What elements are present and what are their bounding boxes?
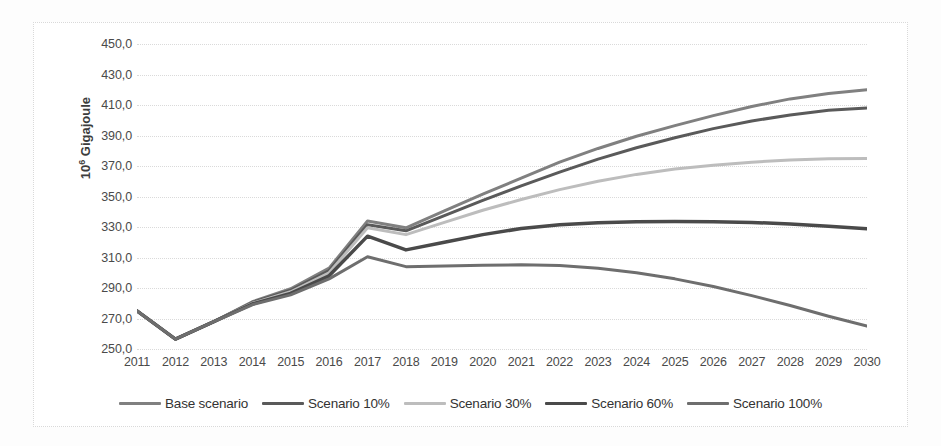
x-axis-tick-label: 2016 — [316, 355, 343, 369]
y-axis-tick-label: 330,0 — [62, 220, 132, 234]
legend-swatch — [262, 402, 304, 405]
legend-swatch — [119, 402, 161, 405]
series-line — [137, 222, 867, 340]
x-axis-tick-label: 2014 — [239, 355, 266, 369]
y-axis-tick-label: 290,0 — [62, 281, 132, 295]
legend-label: Scenario 60% — [591, 396, 673, 411]
series-lines — [137, 44, 867, 349]
legend-item[interactable]: Scenario 60% — [545, 396, 673, 411]
legend-label: Scenario 100% — [733, 396, 822, 411]
y-axis-tick-label: 370,0 — [62, 159, 132, 173]
y-axis-tick-label: 310,0 — [62, 251, 132, 265]
x-axis-tick-label: 2019 — [431, 355, 458, 369]
y-axis-tick-labels: 250,0270,0290,0310,0330,0350,0370,0390,0… — [60, 44, 132, 349]
x-axis-tick-labels: 2011201220132014201520162017201820192020… — [137, 355, 867, 375]
chart-legend: Base scenarioScenario 10%Scenario 30%Sce… — [33, 396, 908, 411]
y-axis-tick-label: 350,0 — [62, 190, 132, 204]
x-axis-tick-label: 2018 — [392, 355, 419, 369]
legend-swatch — [687, 402, 729, 405]
x-axis-tick-label: 2017 — [354, 355, 381, 369]
x-axis-tick-label: 2024 — [623, 355, 650, 369]
y-axis-tick-label: 430,0 — [62, 68, 132, 82]
legend-item[interactable]: Scenario 30% — [404, 396, 532, 411]
x-axis-tick-label: 2026 — [700, 355, 727, 369]
plot-area — [137, 44, 867, 349]
x-axis-tick-label: 2013 — [200, 355, 227, 369]
x-axis-tick-label: 2021 — [508, 355, 535, 369]
x-axis-tick-label: 2015 — [277, 355, 304, 369]
x-axis-tick-label: 2025 — [661, 355, 688, 369]
series-line — [137, 90, 867, 339]
y-axis-tick-label: 250,0 — [62, 342, 132, 356]
legend-item[interactable]: Scenario 10% — [262, 396, 390, 411]
x-axis-tick-label: 2022 — [546, 355, 573, 369]
x-axis-tick-label: 2023 — [585, 355, 612, 369]
line-chart-figure: 106 Gigajoule 250,0270,0290,0310,0330,03… — [0, 0, 941, 446]
y-axis-tick-label: 450,0 — [62, 37, 132, 51]
legend-item[interactable]: Scenario 100% — [687, 396, 822, 411]
y-axis-tick-label: 410,0 — [62, 98, 132, 112]
gridline — [137, 349, 867, 350]
y-axis-tick-label: 270,0 — [62, 312, 132, 326]
y-axis-tick-label: 390,0 — [62, 129, 132, 143]
x-axis-tick-label: 2012 — [162, 355, 189, 369]
series-line — [137, 257, 867, 339]
x-axis-tick-label: 2011 — [124, 355, 150, 369]
legend-swatch — [545, 402, 587, 405]
legend-label: Scenario 30% — [450, 396, 532, 411]
x-axis-tick-label: 2030 — [853, 355, 880, 369]
legend-swatch — [404, 402, 446, 405]
legend-label: Scenario 10% — [308, 396, 390, 411]
x-axis-tick-label: 2020 — [469, 355, 496, 369]
legend-label: Base scenario — [165, 396, 248, 411]
x-axis-tick-label: 2027 — [738, 355, 765, 369]
legend-item[interactable]: Base scenario — [119, 396, 248, 411]
x-axis-tick-label: 2028 — [777, 355, 804, 369]
x-axis-tick-label: 2029 — [815, 355, 842, 369]
